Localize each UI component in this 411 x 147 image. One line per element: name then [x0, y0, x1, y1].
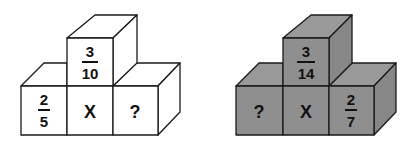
fraction-numerator: 3	[302, 43, 310, 60]
fraction-numerator: 2	[40, 91, 48, 108]
fraction-denominator: 10	[82, 65, 99, 82]
question-mark: ?	[254, 102, 265, 122]
cube-puzzle: 3 10 2 5 X ? 3 14 ? X 2 7	[0, 0, 411, 147]
unknown-x: X	[300, 102, 312, 122]
fraction-denominator: 5	[40, 113, 48, 130]
fraction-numerator: 3	[86, 43, 94, 60]
unknown-x: X	[84, 102, 96, 122]
question-mark: ?	[130, 102, 141, 122]
cube-top-face	[21, 63, 67, 86]
fraction-numerator: 2	[347, 91, 355, 108]
fraction-denominator: 14	[298, 65, 315, 82]
fraction-denominator: 7	[347, 113, 355, 130]
cube-top-face	[236, 63, 283, 86]
